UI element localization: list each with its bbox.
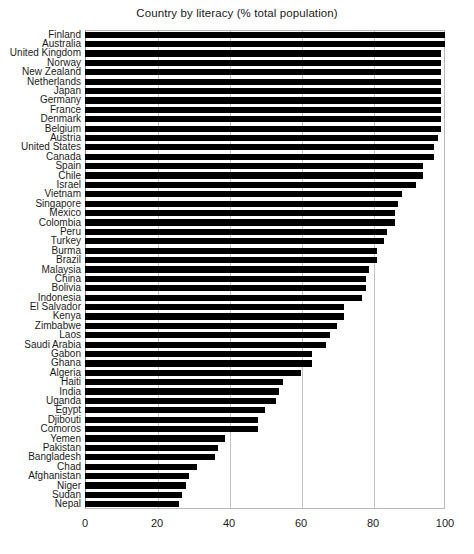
bar — [85, 172, 423, 178]
bar — [85, 144, 434, 150]
bar — [85, 388, 279, 394]
bar — [85, 238, 384, 244]
bar — [85, 229, 387, 235]
bar — [85, 116, 441, 122]
bar — [85, 342, 326, 348]
bar — [85, 332, 330, 338]
category-labels: FinlandAustraliaUnited KingdomNorwayNew … — [0, 30, 81, 509]
bar — [85, 50, 441, 56]
bar — [85, 154, 434, 160]
bar — [85, 492, 182, 498]
x-tick-label: 80 — [367, 517, 379, 529]
bar — [85, 107, 441, 113]
bar — [85, 360, 312, 366]
x-tick-label: 100 — [436, 517, 454, 529]
bar — [85, 323, 337, 329]
bar — [85, 417, 258, 423]
bar — [85, 88, 441, 94]
bar — [85, 464, 197, 470]
bar — [85, 313, 344, 319]
x-tick-label: 60 — [295, 517, 307, 529]
bar — [85, 454, 215, 460]
bar — [85, 266, 369, 272]
x-tick-label: 40 — [223, 517, 235, 529]
bar — [85, 41, 445, 47]
bar — [85, 248, 377, 254]
bar — [85, 182, 416, 188]
x-tick-label: 0 — [82, 517, 88, 529]
bar — [85, 473, 189, 479]
bar — [85, 210, 395, 216]
bar — [85, 426, 258, 432]
bars-layer — [85, 30, 445, 509]
category-label: Nepal — [55, 499, 81, 509]
bar — [85, 295, 362, 301]
bar — [85, 79, 441, 85]
bar — [85, 60, 441, 66]
chart-title: Country by literacy (% total population) — [0, 7, 474, 19]
bar — [85, 97, 441, 103]
bar — [85, 285, 366, 291]
bar — [85, 201, 398, 207]
bar — [85, 501, 179, 507]
bar — [85, 407, 265, 413]
bar — [85, 379, 283, 385]
bar — [85, 257, 377, 263]
bar — [85, 135, 438, 141]
chart-container: Country by literacy (% total population)… — [0, 0, 474, 554]
x-tick-label: 20 — [151, 517, 163, 529]
bar — [85, 69, 441, 75]
bar — [85, 219, 395, 225]
bar — [85, 435, 225, 441]
bar — [85, 32, 445, 38]
bar — [85, 126, 441, 132]
bar — [85, 445, 218, 451]
bar — [85, 191, 402, 197]
bar — [85, 304, 344, 310]
bar — [85, 276, 366, 282]
x-axis: 020406080100 — [0, 509, 474, 539]
bar — [85, 482, 186, 488]
bar — [85, 370, 301, 376]
bar — [85, 398, 276, 404]
bar — [85, 163, 423, 169]
bar — [85, 351, 312, 357]
